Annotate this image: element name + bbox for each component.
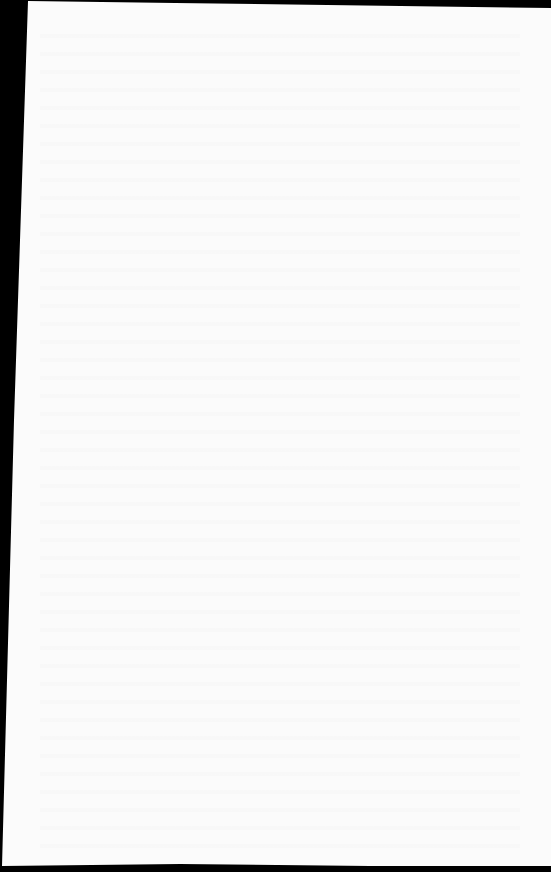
faint-bleed-through [40, 20, 520, 850]
blank-page [0, 0, 551, 872]
scan-bottom-border [0, 866, 551, 872]
scanned-document [0, 0, 551, 872]
